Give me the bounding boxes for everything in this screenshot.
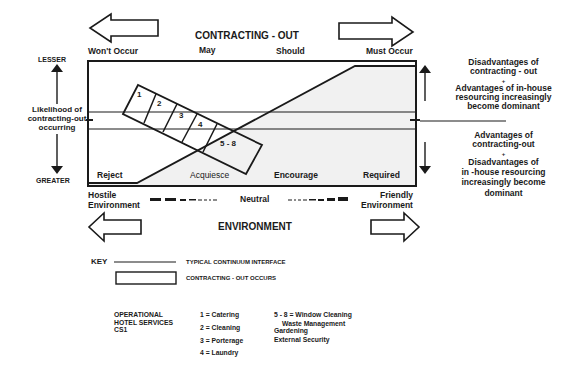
lower-note-5: increasingly become [436,178,571,187]
zone-required: Required [363,171,400,180]
service-4: 4 = Laundry [200,350,238,357]
upper-note-2: contracting - out [436,67,571,76]
segment-1: 1 [137,91,141,99]
key-label: KEY [91,258,107,266]
zone-acquiesce: Acquiesce [190,171,229,180]
neutral-label: Neutral [240,195,269,204]
column-should: Should [276,47,305,56]
service-1: 1 = Catering [200,312,239,319]
service-2: 2 = Cleaning [200,325,240,332]
hostile-label-2: Environment [88,201,140,210]
top-axis-title: CONTRACTING - OUT [195,31,299,41]
arrow-left-icon [90,14,158,42]
arrow-left-env-icon [89,213,141,241]
lower-note-4: in -house resourcing [436,168,571,177]
greater-label: GREATER [36,177,70,184]
segment-5-8: 5 - 8 [220,140,236,148]
segment-4: 4 [198,121,202,129]
column-must-occur: Must Occur [366,47,413,56]
friendly-label-1: Friendly [380,191,413,200]
lower-note-6: dominant [436,189,571,198]
friendly-label-2: Environment [361,201,413,210]
services-title-1: OPERATIONAL [114,312,163,319]
segment-2: 2 [157,100,161,108]
hostile-label-1: Hostile [88,191,116,200]
segment-3: 3 [179,112,183,120]
lower-note-2: contracting-out [436,140,571,149]
zone-encourage: Encourage [274,171,318,180]
key-item-line-text: TYPICAL CONTINUUM INTERFACE [186,259,286,265]
arrow-right-env-icon [371,213,419,241]
likelihood-line-1: Likelihood of [14,106,100,114]
service-5-8: 5 - 8 = Window Cleaning [274,312,352,319]
arrow-right-icon [339,17,413,46]
service-security: External Security [274,337,330,344]
upper-note-5: become dominant [436,102,571,111]
service-gardening: Gardening [274,328,308,335]
lower-note-3: Disadvantages of [436,158,571,167]
key-item-rect-text: CONTRACTING - OUT OCCURS [186,275,276,281]
zone-reject: Reject [97,171,123,180]
column-wont-occur: Won't Occur [88,47,138,56]
key-rectangle-symbol [116,272,176,284]
service-3: 3 = Porterage [200,338,243,345]
continuum-shaded-area [88,66,416,186]
services-title-3: CS1 [114,327,127,334]
environment-title: ENVIRONMENT [218,222,292,232]
likelihood-line-3: occurring [14,124,100,132]
lesser-label: LESSER [38,56,66,63]
likelihood-line-2: contracting-out [14,115,100,123]
column-may: May [199,46,216,55]
